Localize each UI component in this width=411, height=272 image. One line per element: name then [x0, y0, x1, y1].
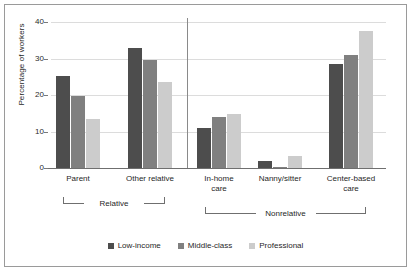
- legend-label: Professional: [259, 241, 303, 250]
- y-tick-label: 30: [4, 55, 44, 63]
- legend-label: Low-income: [118, 241, 161, 250]
- bar-group: [329, 18, 373, 168]
- y-tick-mark: [44, 22, 48, 23]
- bar: [329, 64, 343, 168]
- bar: [86, 119, 100, 168]
- plot-area: [51, 18, 386, 168]
- bar: [56, 76, 70, 168]
- bar-group: [258, 18, 302, 168]
- bar: [212, 117, 226, 168]
- legend-item: Middle-class: [178, 241, 232, 250]
- y-tick-label: 40: [4, 18, 44, 26]
- bar-group: [128, 18, 172, 168]
- y-tick-mark: [44, 59, 48, 60]
- bar-group: [56, 18, 100, 168]
- x-category-label: Parent: [40, 174, 116, 184]
- y-tick-mark: [44, 95, 48, 96]
- bar: [158, 82, 172, 168]
- legend-label: Middle-class: [188, 241, 232, 250]
- x-category-label: Center-basedcare: [313, 174, 389, 193]
- x-category-label: Nanny/sitter: [242, 174, 318, 184]
- y-axis-ticks: 010203040: [0, 0, 44, 272]
- bar: [128, 48, 142, 168]
- x-category-label: Other relative: [112, 174, 188, 184]
- bar: [197, 128, 211, 168]
- bar: [258, 161, 272, 168]
- chart-legend: Low-incomeMiddle-classProfessional: [0, 241, 411, 250]
- y-tick-label: 0: [4, 164, 44, 172]
- bar: [344, 55, 358, 168]
- bracket-label: Relative: [84, 199, 144, 208]
- y-tick-mark: [44, 132, 48, 133]
- bar: [359, 31, 373, 168]
- panel-divider: [187, 18, 188, 168]
- legend-item: Low-income: [108, 241, 161, 250]
- bar: [71, 96, 85, 168]
- legend-item: Professional: [249, 241, 303, 250]
- bracket-label: Nonrelative: [256, 209, 316, 218]
- y-tick-label: 10: [4, 128, 44, 136]
- chart-screenshot: Percentage of workers 010203040 ParentOt…: [0, 0, 411, 272]
- y-tick-label: 20: [4, 91, 44, 99]
- bar: [227, 114, 241, 168]
- bar: [143, 60, 157, 168]
- x-axis-line: [48, 168, 386, 169]
- bar: [288, 156, 302, 168]
- bar-group: [197, 18, 241, 168]
- legend-swatch-icon: [249, 243, 255, 249]
- legend-swatch-icon: [108, 243, 114, 249]
- legend-swatch-icon: [178, 243, 184, 249]
